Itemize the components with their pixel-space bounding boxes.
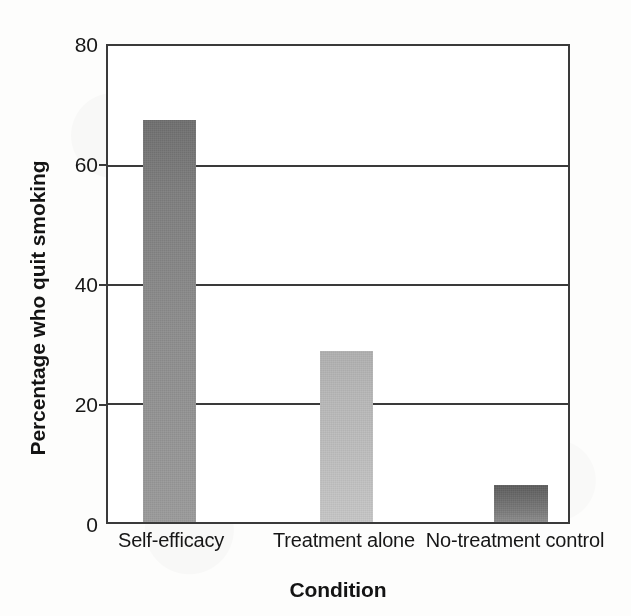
bar-treatment-alone xyxy=(320,351,373,522)
y-tick-label-80: 80 xyxy=(62,34,98,55)
y-tick-label-60: 60 xyxy=(62,154,98,175)
x-axis-title: Condition xyxy=(106,578,570,602)
plot-area xyxy=(106,44,570,524)
bar-chart-figure: Percentage who quit smoking 80 60 40 20 … xyxy=(0,0,631,616)
bar-texture xyxy=(320,351,373,522)
bar-self-efficacy xyxy=(143,120,196,522)
y-tick-label-40: 40 xyxy=(62,274,98,295)
bar-no-treatment-control xyxy=(494,485,548,522)
y-axis-title: Percentage who quit smoking xyxy=(14,0,62,616)
bar-texture xyxy=(494,485,548,522)
bar-texture xyxy=(143,120,196,522)
y-tick-label-20: 20 xyxy=(62,394,98,415)
x-tick-label-no-treatment-control: No-treatment control xyxy=(395,529,631,552)
